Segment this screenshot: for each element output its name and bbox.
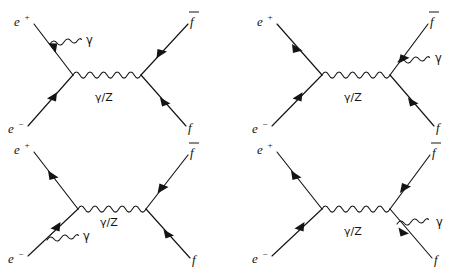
diagram-1-electron-sup: − — [18, 119, 24, 129]
diagram-1-propagator-label: γ/Z — [95, 91, 113, 104]
diagram-2-propagator-label: γ/Z — [344, 91, 362, 104]
diagram-2-photon-label: γ — [435, 51, 442, 65]
diagram-2-electron-sup: − — [262, 119, 268, 129]
diagram-3-positron-label: e — [14, 142, 20, 157]
diagram-4-fermion-label: f — [434, 252, 440, 267]
diagram-3-outgoing-antifermion-line — [146, 155, 188, 209]
diagram-2-antifermion-label: f — [430, 14, 436, 29]
diagram-1-positron-sup: + — [24, 12, 30, 22]
diagram-4-incoming-positron-arrow — [291, 171, 302, 181]
diagram-2-positron-sup: + — [267, 12, 273, 22]
diagram-1-outgoing-antifermion-line — [141, 24, 188, 75]
diagram-3-propagator-label: γ/Z — [100, 216, 118, 229]
diagram-3-electron-label: e — [8, 251, 14, 266]
diagram-1-photon-label: γ — [86, 33, 93, 47]
diagram-1-incoming-electron-line — [28, 75, 73, 126]
diagram-4-incoming-electron-arrow — [295, 222, 305, 232]
diagram-3-electron-sup: − — [18, 249, 24, 259]
diagram-4-electron-label: e — [252, 251, 258, 266]
diagram-1-outgoing-antifermion-arrow — [157, 49, 168, 58]
diagram-4-propagator-wave — [322, 206, 390, 212]
diagram-1-electron-label: e — [8, 121, 14, 136]
diagram-1-outgoing-fermion-arrow — [160, 98, 171, 107]
diagram-4-positron-sup: + — [267, 140, 273, 150]
diagram-3-outgoing-fermion-arrow — [164, 230, 175, 239]
diagram-4-antifermion-label: f — [432, 145, 438, 160]
diagram-3-fermion-label: f — [192, 252, 198, 267]
diagram-4-propagator-label: γ/Z — [344, 225, 362, 238]
diagram-2-incoming-electron-line — [272, 75, 322, 126]
diagram-1-propagator-wave — [73, 72, 141, 78]
diagram-4-positron-label: e — [257, 142, 263, 157]
diagram-2-electron-label: e — [252, 121, 258, 136]
diagram-3-incoming-positron-arrow — [48, 171, 59, 181]
diagram-4-outgoing-antifermion-line — [390, 155, 430, 209]
diagram-4-outgoing-antifermion-arrow — [400, 183, 411, 193]
diagram-3-propagator-wave — [78, 206, 146, 212]
diagram-4-incoming-positron-line — [277, 152, 322, 209]
diagram-4-outgoing-fermion-line — [390, 209, 432, 258]
diagram-canvas: e + e − f f γ γ/Z e + e − f — [0, 0, 464, 278]
feynman-diagram-figure: e + e − f f γ γ/Z e + e − f — [0, 0, 464, 278]
diagram-2: e + e − f f γ γ/Z — [252, 12, 442, 136]
diagram-3-photon-label: γ — [83, 229, 90, 243]
diagram-1-antifermion-label: f — [190, 14, 196, 29]
diagram-4-electron-sup: − — [262, 249, 268, 259]
diagram-2-fermion-label: f — [436, 120, 442, 135]
diagram-2-positron-label: e — [257, 14, 263, 29]
diagram-2-propagator-wave — [322, 72, 390, 78]
diagram-2-incoming-electron-arrow — [293, 92, 303, 101]
diagram-3-positron-sup: + — [24, 140, 30, 150]
diagram-3-outgoing-antifermion-arrow — [158, 184, 169, 194]
diagram-1-incoming-electron-arrow — [47, 92, 57, 101]
diagram-4: e + e − f f γ γ/Z — [252, 140, 443, 267]
diagram-2-outgoing-antifermion-line — [390, 24, 428, 75]
diagram-3-antifermion-label: f — [190, 145, 196, 160]
diagram-4-incoming-electron-line — [272, 209, 322, 256]
diagram-3-incoming-electron-arrow — [51, 222, 61, 232]
diagram-1-fermion-label: f — [188, 120, 194, 135]
diagram-2-outgoing-fermion-arrow — [408, 98, 419, 107]
diagram-3: e + e − f f γ γ/Z — [8, 140, 199, 267]
diagram-3-photon-wave — [47, 235, 79, 241]
diagram-1-positron-label: e — [14, 14, 20, 29]
diagram-3-incoming-electron-line — [28, 209, 78, 256]
diagram-1-incoming-positron-arrow — [49, 43, 58, 53]
diagram-4-photon-label: γ — [436, 215, 443, 229]
diagram-1: e + e − f f γ γ/Z — [8, 12, 199, 136]
diagram-3-incoming-positron-line — [34, 152, 78, 209]
